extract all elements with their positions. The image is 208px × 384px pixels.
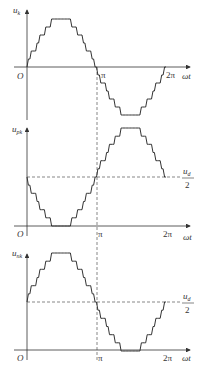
origin-label: O (17, 229, 24, 239)
panel-upk: upk O π 2π ωt ud 2 (12, 124, 194, 242)
panel-unk: unk O π 2π ωt ud 2 (12, 248, 194, 363)
tick-pi: π (98, 229, 103, 239)
tick-pi: π (101, 70, 106, 80)
ylabel-uk: uk (13, 5, 21, 16)
panel-uk: uk O π 2π ωt (13, 5, 191, 120)
tick-2pi: 2π (163, 353, 173, 363)
tick-pi: π (98, 353, 103, 363)
origin-label: O (17, 71, 24, 81)
ud-label-den: 2 (185, 305, 190, 315)
xlabel-wt: ωt (183, 232, 192, 242)
ud-label-den: 2 (185, 180, 190, 190)
xlabel-wt: ωt (182, 71, 191, 81)
ylabel-upk: upk (12, 124, 23, 135)
tick-2pi: 2π (163, 229, 173, 239)
ud-label-num: ud (183, 166, 192, 177)
waveform-diagram: uk O π 2π ωt upk O π 2π ωt ud 2 unk O π … (0, 0, 208, 384)
tick-2pi: 2π (166, 70, 176, 80)
ylabel-unk: unk (12, 248, 23, 259)
xlabel-wt: ωt (182, 353, 191, 363)
ud-label-num: ud (183, 291, 192, 302)
origin-label: O (17, 353, 24, 363)
